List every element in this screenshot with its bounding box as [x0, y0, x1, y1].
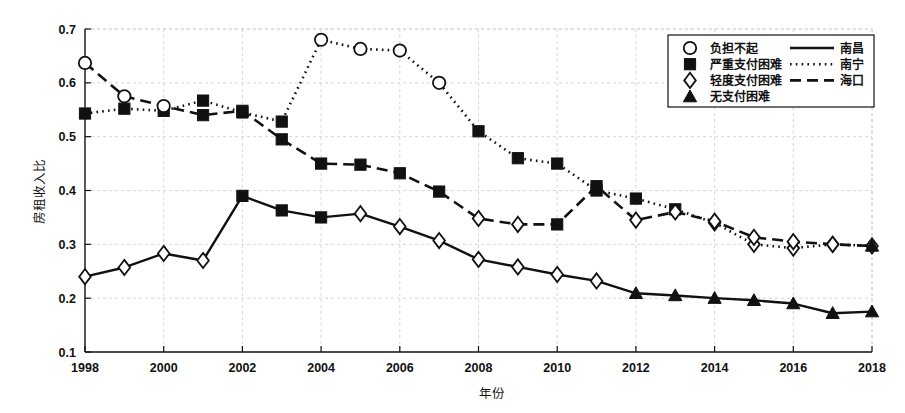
- legend: 负担不起严重支付困难轻度支付困难无支付困难南昌南宁海口: [668, 35, 874, 107]
- data-point: [79, 269, 91, 284]
- data-point: [316, 158, 327, 169]
- x-tick-label: 1998: [71, 361, 99, 375]
- x-axis-title: 年份: [479, 386, 505, 401]
- y-tick-label: 0.7: [59, 23, 76, 37]
- data-point: [118, 90, 130, 102]
- data-point: [158, 100, 170, 112]
- legend-label-circle: 负担不起: [710, 41, 759, 56]
- data-point: [79, 57, 91, 69]
- data-point: [237, 190, 248, 201]
- marker-diamond: [79, 269, 91, 284]
- marker-circle: [315, 34, 327, 46]
- data-point: [158, 246, 170, 261]
- x-tick-label: 2016: [779, 361, 807, 375]
- data-point: [197, 110, 208, 121]
- marker-filled-square: [684, 59, 695, 70]
- data-point: [630, 213, 642, 228]
- marker-diamond: [158, 246, 170, 261]
- marker-filled-square: [316, 158, 327, 169]
- data-point: [551, 267, 563, 282]
- x-tick-label: 2018: [858, 361, 886, 375]
- legend-label-filled-square: 严重支付困难: [709, 57, 782, 72]
- marker-filled-square: [394, 168, 405, 179]
- marker-filled-square: [552, 158, 563, 169]
- data-point: [552, 158, 563, 169]
- x-tick-label: 2010: [543, 361, 571, 375]
- data-point: [512, 217, 524, 232]
- y-tick-label: 0.3: [59, 238, 76, 252]
- legend-label-diamond: 轻度支付困难: [710, 73, 782, 88]
- marker-diamond: [827, 237, 839, 252]
- data-point: [433, 233, 445, 248]
- data-point: [237, 105, 248, 116]
- marker-diamond: [473, 211, 485, 226]
- data-point: [276, 116, 287, 127]
- marker-filled-square: [237, 190, 248, 201]
- marker-filled-square: [237, 105, 248, 116]
- data-point: [394, 219, 406, 234]
- y-tick-label: 0.2: [59, 292, 76, 306]
- marker-diamond: [512, 259, 524, 274]
- x-tick-label: 2000: [150, 361, 178, 375]
- line-chart: 1998200020022004200620082010201220142016…: [0, 0, 905, 413]
- marker-filled-square: [79, 108, 90, 119]
- data-point: [394, 44, 406, 56]
- marker-circle: [394, 44, 406, 56]
- marker-circle: [354, 43, 366, 55]
- y-tick-label: 0.6: [59, 76, 76, 90]
- marker-filled-square: [630, 193, 641, 204]
- data-point: [355, 159, 366, 170]
- marker-filled-square: [434, 186, 445, 197]
- marker-circle: [118, 90, 130, 102]
- y-tick-label: 0.4: [59, 184, 76, 198]
- legend-marker-circle: [684, 42, 696, 54]
- data-point: [591, 273, 603, 288]
- marker-filled-square: [119, 103, 130, 114]
- data-point: [197, 95, 208, 106]
- data-point: [276, 134, 287, 145]
- legend-marker-filled-square: [684, 59, 695, 70]
- data-point: [119, 103, 130, 114]
- marker-filled-square: [197, 95, 208, 106]
- marker-filled-square: [276, 134, 287, 145]
- x-tick-label: 2002: [228, 361, 256, 375]
- y-tick-label: 0.1: [59, 346, 76, 360]
- data-point: [354, 43, 366, 55]
- x-tick-label: 2006: [386, 361, 414, 375]
- marker-diamond: [473, 252, 485, 267]
- x-tick-label: 2014: [701, 361, 729, 375]
- data-point: [512, 259, 524, 274]
- chart-figure: 1998200020022004200620082010201220142016…: [0, 0, 905, 413]
- data-point: [630, 193, 641, 204]
- x-tick-label: 2012: [622, 361, 650, 375]
- marker-filled-square: [197, 110, 208, 121]
- data-point: [355, 206, 367, 221]
- marker-circle: [684, 42, 696, 54]
- data-point: [276, 205, 287, 216]
- marker-filled-square: [355, 159, 366, 170]
- data-point: [315, 34, 327, 46]
- x-tick-label: 2004: [307, 361, 335, 375]
- legend-label-海口: 海口: [840, 73, 864, 88]
- data-point: [394, 168, 405, 179]
- marker-diamond: [512, 217, 524, 232]
- marker-circle: [79, 57, 91, 69]
- legend-label-南宁: 南宁: [840, 57, 864, 72]
- data-point: [473, 211, 485, 226]
- marker-filled-square: [591, 181, 602, 192]
- data-point: [433, 77, 445, 89]
- data-point: [473, 126, 484, 137]
- marker-filled-square: [473, 126, 484, 137]
- marker-diamond: [630, 213, 642, 228]
- data-point: [827, 237, 839, 252]
- marker-filled-square: [276, 116, 287, 127]
- x-tick-label: 2008: [465, 361, 493, 375]
- data-point: [79, 108, 90, 119]
- marker-filled-square: [552, 219, 563, 230]
- y-tick-label: 0.5: [59, 130, 76, 144]
- legend-label-南昌: 南昌: [840, 41, 864, 56]
- data-point: [473, 252, 485, 267]
- marker-diamond: [394, 219, 406, 234]
- marker-diamond: [119, 260, 131, 275]
- data-point: [434, 186, 445, 197]
